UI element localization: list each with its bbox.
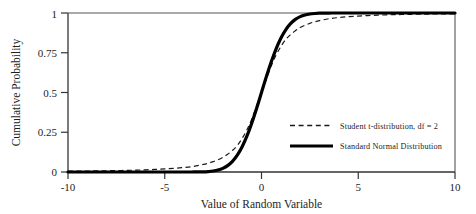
legend-label-standard-normal: Standard Normal Distribution xyxy=(340,142,442,151)
y-tick-label-0: 0 xyxy=(52,166,58,178)
legend-label-student-t: Student t-distribution, df = 2 xyxy=(340,122,438,131)
x-tick-label-0: 0 xyxy=(259,181,265,193)
legend: Student t-distribution, df = 2 Standard … xyxy=(290,122,442,152)
y-tick-label-0-75: 0.75 xyxy=(38,47,58,59)
y-axis-title: Cumulative Probability xyxy=(10,38,23,146)
y-axis-ticks xyxy=(61,13,68,172)
y-tick-label-0-5: 0.5 xyxy=(43,87,57,99)
x-tick-label-10: 10 xyxy=(450,181,462,193)
x-tick-label-neg10: -10 xyxy=(61,181,76,193)
y-tick-label-0-25: 0.25 xyxy=(38,126,58,138)
x-axis-title: Value of Random Variable xyxy=(201,198,322,210)
y-tick-label-1: 1 xyxy=(52,8,58,20)
x-tick-label-neg5: -5 xyxy=(160,181,170,193)
cdf-comparison-chart: 0 0.25 0.5 0.75 1 -10 -5 0 5 10 Value of… xyxy=(0,0,476,214)
figure-container: 0 0.25 0.5 0.75 1 -10 -5 0 5 10 Value of… xyxy=(0,0,476,214)
x-tick-label-5: 5 xyxy=(356,181,362,193)
